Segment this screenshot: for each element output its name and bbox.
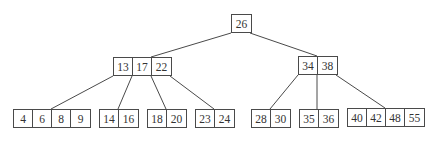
node-key: 34 xyxy=(299,57,318,74)
tree-node-leaf-5: 2830 xyxy=(251,109,291,128)
node-key: 9 xyxy=(71,110,90,127)
edge xyxy=(118,76,132,109)
node-key: 20 xyxy=(167,110,186,127)
tree-node-leaf-3: 1820 xyxy=(147,109,187,128)
node-key: 17 xyxy=(133,58,152,75)
node-key: 55 xyxy=(405,109,424,126)
tree-node-leaf-7: 40424855 xyxy=(347,108,425,127)
tree-node-leaf-2: 1416 xyxy=(99,109,139,128)
tree-node-leaf-6: 3536 xyxy=(299,109,339,128)
edge xyxy=(170,76,214,109)
tree-node-n-right: 3438 xyxy=(298,56,338,75)
node-key: 48 xyxy=(386,109,405,126)
edge xyxy=(250,33,317,56)
node-key: 8 xyxy=(52,110,71,127)
node-key: 28 xyxy=(252,110,271,127)
node-key: 36 xyxy=(319,110,338,127)
node-key: 22 xyxy=(152,58,171,75)
tree-node-leaf-1: 4689 xyxy=(13,109,91,128)
tree-node-root: 26 xyxy=(231,14,252,33)
tree-node-n-left: 131722 xyxy=(113,57,172,76)
node-key: 42 xyxy=(367,109,386,126)
node-key: 30 xyxy=(271,110,290,127)
node-key: 23 xyxy=(196,110,215,127)
node-key: 24 xyxy=(215,110,234,127)
node-key: 26 xyxy=(232,15,251,32)
node-key: 18 xyxy=(148,110,167,127)
node-key: 6 xyxy=(33,110,52,127)
node-key: 4 xyxy=(14,110,33,127)
node-key: 14 xyxy=(100,110,119,127)
edge xyxy=(151,76,166,109)
edge xyxy=(336,75,385,108)
node-key: 13 xyxy=(114,58,133,75)
node-key: 40 xyxy=(348,109,367,126)
tree-node-leaf-4: 2324 xyxy=(195,109,235,128)
node-key: 16 xyxy=(119,110,138,127)
node-key: 35 xyxy=(300,110,319,127)
edge xyxy=(270,75,298,109)
edge xyxy=(51,76,113,109)
node-key: 38 xyxy=(318,57,337,74)
edge xyxy=(151,33,231,57)
